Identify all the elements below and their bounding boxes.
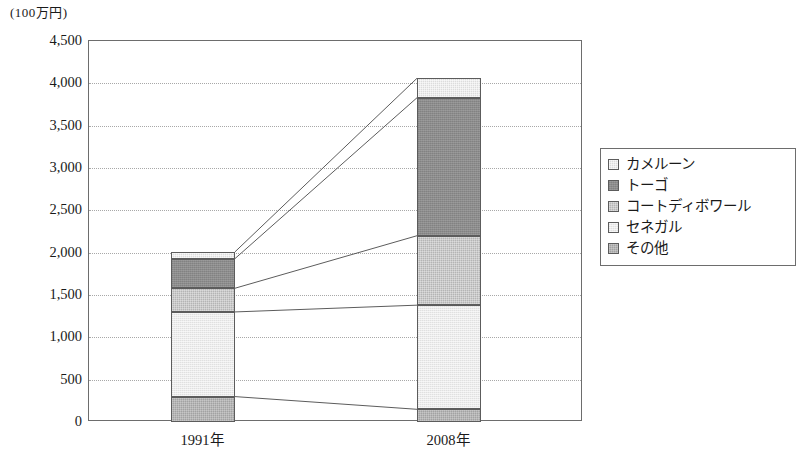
bar-segment-1991年-セネガル [171, 312, 235, 397]
bar-1991年 [171, 41, 235, 422]
bar-segment-2008年-コートディボワール [417, 236, 481, 305]
bottom-caption [12, 459, 612, 466]
legend-item-cameroon: カメルーン [608, 154, 788, 175]
gridline-2000 [89, 253, 581, 254]
bar-segment-2008年-カメルーン [417, 78, 481, 97]
bar-segment-2008年-その他 [417, 409, 481, 422]
gridline-500 [89, 380, 581, 381]
legend-swatch-senegal [608, 222, 619, 233]
segment-connector-lines [89, 41, 583, 422]
gridline-3500 [89, 126, 581, 127]
legend-swatch-other [608, 243, 619, 254]
y-axis-tick-3500: 3,500 [10, 116, 82, 133]
bar-segment-2008年-セネガル [417, 305, 481, 409]
legend-label: カメルーン [626, 157, 695, 172]
x-axis-tick-1991年: 1991年 [137, 428, 267, 449]
connector-line-4 [235, 98, 417, 259]
bar-segment-1991年-その他 [171, 397, 235, 422]
connector-line-5 [235, 78, 417, 252]
y-axis-tick-2500: 2,500 [10, 201, 82, 218]
legend-label: セネガル [626, 220, 682, 235]
x-axis-tick-2008年: 2008年 [383, 428, 513, 449]
gridline-1500 [89, 295, 581, 296]
y-axis-tick-4000: 4,000 [10, 74, 82, 91]
legend-label: コートディボワール [626, 199, 751, 214]
bar-segment-1991年-カメルーン [171, 252, 235, 259]
bar-segment-1991年-コートディボワール [171, 288, 235, 312]
y-axis-tick-1500: 1,500 [10, 286, 82, 303]
chart-figure: (100万円) 05001,0001,5002,0002,5003,0003,5… [0, 0, 800, 466]
y-axis-tick-3000: 3,000 [10, 159, 82, 176]
y-axis-tick-4500: 4,500 [10, 32, 82, 49]
legend-swatch-cote [608, 201, 619, 212]
legend-swatch-cameroon [608, 159, 619, 170]
gridline-1000 [89, 337, 581, 338]
y-axis-tick-2000: 2,000 [10, 243, 82, 260]
y-axis-tick-1000: 1,000 [10, 328, 82, 345]
legend-item-senegal: セネガル [608, 217, 788, 238]
bar-segment-1991年-トーゴ [171, 259, 235, 289]
legend-label: トーゴ [626, 178, 668, 193]
y-axis-tick-0: 0 [10, 413, 82, 430]
bar-2008年 [417, 41, 481, 422]
legend: カメルーントーゴコートディボワールセネガルその他 [600, 148, 796, 266]
connector-line-3 [235, 236, 417, 288]
connector-line-1 [235, 397, 417, 410]
legend-item-cote: コートディボワール [608, 196, 788, 217]
y-axis-tick-500: 500 [10, 370, 82, 387]
connector-line-2 [235, 305, 417, 312]
gridline-2500 [89, 210, 581, 211]
gridline-3000 [89, 168, 581, 169]
legend-item-togo: トーゴ [608, 175, 788, 196]
legend-item-other: その他 [608, 238, 788, 259]
bar-segment-2008年-トーゴ [417, 98, 481, 236]
plot-area [88, 40, 582, 421]
legend-label: その他 [626, 241, 668, 256]
legend-swatch-togo [608, 180, 619, 191]
y-axis-tick-labels: 05001,0001,5002,0002,5003,0003,5004,0004… [8, 0, 82, 466]
gridline-4000 [89, 83, 581, 84]
